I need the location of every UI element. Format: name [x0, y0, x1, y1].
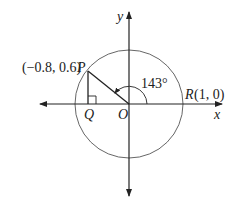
right-angle-marker: [88, 96, 96, 104]
origin-label: O: [118, 107, 128, 122]
point-r-label: R: [184, 87, 194, 102]
point-p-coords-label: (−0.8, 0.6): [22, 60, 82, 76]
unit-circle-diagram: (−0.8, 0.6) P 143° R (1, 0) Q O x y: [0, 0, 234, 208]
y-axis-label: y: [115, 9, 124, 24]
point-r-coords-label: (1, 0): [194, 87, 225, 103]
x-axis-label: x: [213, 107, 221, 122]
angle-label: 143°: [141, 76, 168, 91]
point-q-label: Q: [84, 107, 94, 122]
point-p-label: P: [76, 60, 86, 75]
